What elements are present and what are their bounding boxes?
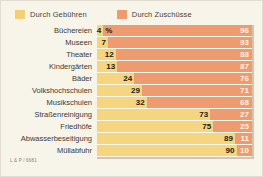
chart-bar-track: 1387 <box>97 61 252 73</box>
chart-legend: Durch Gebühren Durch Zuschüsse <box>15 8 192 21</box>
bar-value-subsidies: 96 <box>240 25 249 37</box>
bar-value-subsidies: 87 <box>240 61 249 73</box>
bar-value-subsidies: 11 <box>241 133 249 145</box>
bar-value-fees: 29 <box>131 85 140 97</box>
legend-item-subsidies: Durch Zuschüsse <box>117 10 192 19</box>
bar-segment-subsidies: 76 <box>134 73 252 84</box>
bar-segment-subsidies: 10 <box>237 145 253 156</box>
chart-bar-track: 9010 <box>97 145 252 157</box>
chart-bar-track: 8911 <box>97 133 252 145</box>
source-credit: L & P / 6681 <box>10 158 37 163</box>
plot-bottom-edge <box>97 157 254 159</box>
chart-bar-track: 7525 <box>97 121 252 133</box>
chart-row: Bäder2476 <box>7 73 252 85</box>
bar-segment-fees: 32 <box>97 97 147 108</box>
bar-value-fees: 32 <box>136 97 145 109</box>
chart-row: Abwasserbeseitigung8911 <box>7 133 252 145</box>
chart-row-label: Straßenreinigung <box>7 109 97 121</box>
chart-bar-track: 7327 <box>97 109 252 121</box>
chart-row-label: Theater <box>7 49 97 61</box>
bar-value-subsidies: 88 <box>240 49 249 61</box>
bar-value-subsidies: 93 <box>240 37 249 49</box>
chart-row-label: Bäder <box>7 73 97 85</box>
bar-value-subsidies: 25 <box>240 121 249 133</box>
chart-row-label: Volkshochschulen <box>7 85 97 97</box>
bar-segment-fees: 89 <box>97 133 235 144</box>
chart-row: Kindergärten1387 <box>7 61 252 73</box>
legend-swatch-fees-icon <box>15 10 25 19</box>
bar-value-subsidies: 68 <box>240 97 249 109</box>
bar-value-fees: 89 <box>224 133 233 145</box>
bar-value-fees: 75 <box>202 121 211 133</box>
bar-value-fees: 12 <box>105 49 114 61</box>
bar-segment-subsidies: 25 <box>213 121 252 132</box>
chart-bar-track: 1288 <box>97 49 252 61</box>
chart-row-label: Musikschulen <box>7 97 97 109</box>
legend-label-subsidies: Durch Zuschüsse <box>132 10 192 19</box>
chart-row: Friedhöfe7525 <box>7 121 252 133</box>
chart-row-label: Friedhöfe <box>7 121 97 133</box>
chart-row: Volkshochschulen2971 <box>7 85 252 97</box>
bar-segment-fees: 13 <box>97 61 117 72</box>
chart-row-label: Büchereien <box>7 25 97 37</box>
bar-value-fees: 4 <box>97 25 101 37</box>
plot-right-edge <box>252 25 254 157</box>
bar-value-subsidies: 27 <box>240 109 249 121</box>
legend-item-fees: Durch Gebühren <box>15 10 87 19</box>
bar-value-fees: 7 <box>101 37 105 49</box>
chart-row: Straßenreinigung7327 <box>7 109 252 121</box>
bar-segment-subsidies: 88 <box>116 49 252 60</box>
chart-row-label: Müllabfuhr <box>7 145 97 157</box>
chart-bar-track: 793 <box>97 37 252 49</box>
bar-value-subsidies: 10 <box>240 145 249 157</box>
chart-row-label: Museen <box>7 37 97 49</box>
chart-bar-track: 2476 <box>97 73 252 85</box>
bar-value-subsidies: 76 <box>240 73 249 85</box>
chart-row-label: Kindergärten <box>7 61 97 73</box>
bar-segment-subsidies: 11 <box>235 133 252 144</box>
legend-swatch-subsidies-icon <box>117 10 127 19</box>
bar-value-fees: 13 <box>106 61 115 73</box>
bar-segment-subsidies: 93 <box>108 37 252 48</box>
bar-segment-fees: 73 <box>97 109 210 120</box>
bar-value-fees: 24 <box>123 73 132 85</box>
chart-row: Büchereien496% <box>7 25 252 37</box>
chart-figure: Durch Gebühren Durch Zuschüsse Büchereie… <box>0 0 263 177</box>
chart-row: Museen793 <box>7 37 252 49</box>
chart-bar-track: 3268 <box>97 97 252 109</box>
bar-segment-fees: 24 <box>97 73 134 84</box>
bar-segment-fees: 29 <box>97 85 142 96</box>
bar-value-fees: 90 <box>226 145 235 157</box>
bar-segment-subsidies: 96% <box>103 25 252 36</box>
bar-segment-fees: 12 <box>97 49 116 60</box>
bar-segment-fees: 90 <box>97 145 237 156</box>
bar-segment-subsidies: 27 <box>210 109 252 120</box>
bar-value-subsidies: 71 <box>240 85 249 97</box>
chart-row: Theater1288 <box>7 49 252 61</box>
chart-row: Müllabfuhr9010 <box>7 145 252 157</box>
percent-unit-mark: % <box>105 25 112 37</box>
legend-label-fees: Durch Gebühren <box>30 10 87 19</box>
stacked-bar-plot: Büchereien496%Museen793Theater1288Kinder… <box>7 25 252 157</box>
chart-row: Musikschulen3268 <box>7 97 252 109</box>
bar-segment-subsidies: 87 <box>117 61 252 72</box>
bar-segment-fees: 75 <box>97 121 213 132</box>
chart-bar-track: 2971 <box>97 85 252 97</box>
bar-value-fees: 73 <box>199 109 208 121</box>
bar-segment-subsidies: 68 <box>147 97 252 108</box>
bar-segment-fees: 7 <box>97 37 108 48</box>
chart-row-label: Abwasserbeseitigung <box>7 133 97 145</box>
bar-segment-subsidies: 71 <box>142 85 252 96</box>
chart-bar-track: 496% <box>97 25 252 37</box>
